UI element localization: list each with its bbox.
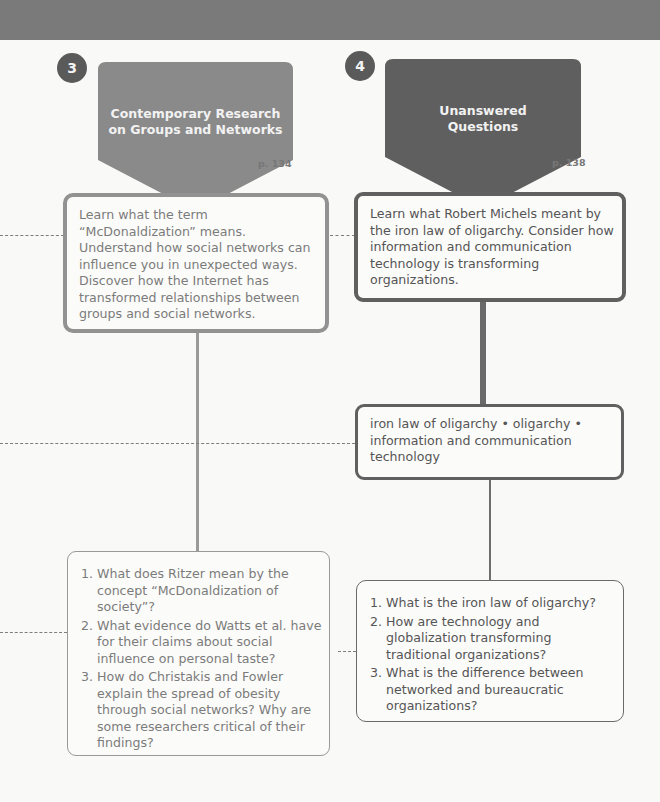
section-3-objectives-box: Learn what the term “McDonaldization” me… [63, 193, 329, 333]
section-4-connector [477, 168, 489, 193]
question-item: How do Christakis and Fowler explain the… [97, 669, 323, 752]
section-4-title: Unanswered Questions [385, 103, 581, 135]
section-3-questions-box: What does Ritzer mean by the concept “Mc… [67, 551, 330, 756]
section-3-title: Contemporary Research on Groups and Netw… [98, 106, 293, 138]
key-terms-row-guide [0, 443, 355, 444]
objectives-row-guide [0, 235, 64, 236]
section-3-connector [190, 170, 203, 194]
question-item: What evidence do Watts et al. have for t… [97, 618, 323, 668]
section-3-objectives-text: Learn what the term “McDonaldization” me… [79, 207, 311, 321]
section-4-key-terms-text: iron law of oligarchy • oligarchy • info… [370, 416, 582, 464]
section-3-questions-list: What does Ritzer mean by the concept “Mc… [80, 566, 323, 752]
section-4-key-terms-stem [489, 478, 491, 582]
section-4-stem [480, 300, 486, 408]
question-item: How are technology and globalization tra… [386, 614, 617, 664]
section-4-key-terms-box: iron law of oligarchy • oligarchy • info… [355, 404, 624, 480]
section-3-page-ref[interactable]: p. 134 [258, 158, 292, 169]
questions-row-guide [0, 632, 67, 633]
header-band [0, 0, 660, 40]
objectives-row-guide-4 [330, 235, 355, 236]
question-item: What does Ritzer mean by the concept “Mc… [97, 566, 323, 616]
section-4-questions-list: What is the iron law of oligarchy? How a… [369, 595, 617, 715]
section-4-page-ref[interactable]: p. 138 [552, 157, 586, 168]
question-item: What is the difference between networked… [386, 665, 617, 715]
section-4-objectives-text: Learn what Robert Michels meant by the i… [370, 206, 614, 287]
question-item: What is the iron law of oligarchy? [386, 595, 617, 612]
questions-row-guide-4 [338, 651, 356, 652]
section-4-questions-box: What is the iron law of oligarchy? How a… [356, 580, 624, 722]
section-3-number-badge: 3 [57, 53, 87, 83]
section-4-objectives-box: Learn what Robert Michels meant by the i… [354, 192, 626, 302]
section-4-number-badge: 4 [345, 51, 375, 81]
